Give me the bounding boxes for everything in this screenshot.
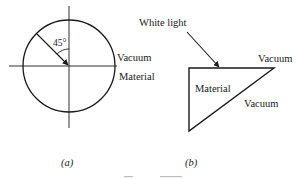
angle-arc-icon bbox=[57, 49, 69, 54]
angle-label: 45° bbox=[53, 38, 67, 48]
figure-caption-clipped bbox=[124, 176, 182, 177]
vacuum-label-top: Vacuum bbox=[258, 53, 292, 64]
vacuum-label-hypotenuse: Vacuum bbox=[244, 98, 278, 109]
panel-a: 45° Vacuum Material (a) bbox=[9, 6, 155, 169]
material-label-b: Material bbox=[195, 83, 231, 94]
material-label-a: Material bbox=[119, 71, 155, 82]
caption-a: (a) bbox=[61, 157, 74, 169]
vacuum-label-a: Vacuum bbox=[117, 52, 151, 63]
caption-b: (b) bbox=[185, 157, 198, 169]
panel-b: White light Vacuum Material Vacuum (b) bbox=[139, 17, 292, 169]
white-light-label: White light bbox=[139, 17, 187, 28]
diagram-canvas: 45° Vacuum Material (a) White light Vacu… bbox=[0, 0, 301, 179]
white-light-arrow-icon bbox=[187, 32, 219, 67]
